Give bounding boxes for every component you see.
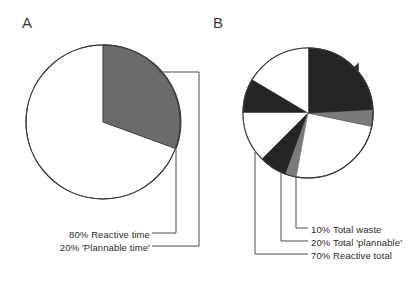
panel-a-label-reactive-time: 80% Reactive time	[69, 229, 150, 240]
panel-b-leader-waste	[296, 177, 308, 228]
panel-a-letter: A	[22, 14, 33, 31]
panel-b-label-total-waste: 10% Total waste	[311, 224, 382, 235]
panel-a-pie	[26, 45, 181, 199]
panel-a-label-plannable-time: 20% 'Plannable time'	[60, 242, 150, 253]
panel-b-pie	[243, 48, 396, 187]
panel-b-label-total-plannable: 20% Total 'plannable'	[311, 237, 402, 248]
panel-b-label-reactive-total: 70% Reactive total	[311, 250, 392, 261]
panel-b-leader-plannable	[281, 172, 308, 241]
panel-b-letter: B	[213, 14, 224, 31]
figure-canvas: A B 80% Reactive time 20% 'Plannable tim…	[0, 0, 410, 287]
